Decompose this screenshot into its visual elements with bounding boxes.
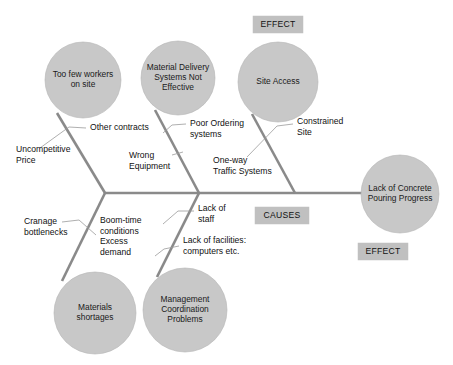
cause-bubble-group: Too few workerson siteMaterial DeliveryS…: [45, 41, 318, 354]
bubble-too-few-workers[interactable]: Too few workerson site: [45, 42, 121, 118]
bubble-label-site-access: Site Access: [256, 76, 299, 86]
bubble-label-materials-shortages: Materialsshortages: [77, 302, 114, 322]
tag-effect-top: EFFECT: [253, 16, 303, 33]
cause-label-uncompetitive-price: UncompetitivePrice: [16, 144, 71, 165]
rib-access: [252, 114, 295, 193]
bubble-material-delivery[interactable]: Material DeliverySystems NotEffective: [141, 41, 215, 115]
tag-effect-bottom: EFFECT: [358, 243, 408, 260]
bubble-site-access[interactable]: Site Access: [238, 42, 318, 122]
cause-label-group: Other contractsUncompetitivePricePoor Or…: [16, 116, 344, 257]
tag-label-effect-top: EFFECT: [260, 19, 296, 29]
cause-label-wrong-equipment: WrongEquipment: [129, 150, 171, 171]
cause-label-constrained-site: ConstrainedSite: [297, 116, 344, 137]
bubble-management-coordination[interactable]: ManagementCoordinationProblems: [143, 268, 227, 352]
cause-label-boom-time: Boom-timeconditionsExcessdemand: [100, 215, 142, 257]
bubble-materials-shortages[interactable]: Materialsshortages: [54, 272, 136, 354]
cause-label-cranage-bottlenecks: Cranagebottlenecks: [24, 216, 67, 237]
rib-materials: [62, 193, 105, 281]
leader-constrained-site: [247, 124, 293, 157]
rib-group: [57, 110, 295, 281]
cause-label-lack-of-facilities: Lack of facilities:computers etc.: [183, 235, 246, 256]
leader-line-group: [40, 124, 293, 256]
bubble-label-management-coordination: ManagementCoordinationProblems: [161, 294, 211, 324]
tag-label-causes: CAUSES: [263, 210, 300, 220]
cause-label-poor-ordering: Poor Orderingsystems: [190, 118, 244, 139]
effect-head-group: Lack of ConcretePouring Progress: [361, 155, 439, 233]
fishbone-diagram-canvas: Too few workerson siteMaterial DeliveryS…: [0, 0, 453, 365]
fishbone-diagram-svg: Too few workerson siteMaterial DeliveryS…: [0, 0, 453, 365]
cause-label-one-way-traffic: One-wayTraffic Systems: [213, 155, 272, 176]
cause-label-other-contracts: Other contracts: [90, 122, 149, 132]
cause-label-lack-of-staff: Lack ofstaff: [198, 203, 226, 224]
tag-label-effect-bottom: EFFECT: [365, 246, 401, 256]
effect-head-bubble[interactable]: Lack of ConcretePouring Progress: [361, 155, 439, 233]
tag-causes: CAUSES: [255, 207, 309, 224]
effect-head-label: Lack of ConcretePouring Progress: [368, 183, 433, 203]
